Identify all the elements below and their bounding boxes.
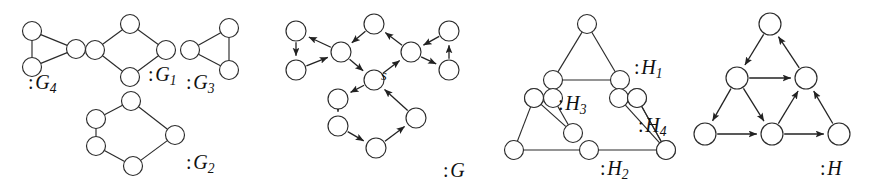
graph-edge [198, 54, 220, 65]
label-sub-h3: 3 [580, 102, 587, 117]
graph-node [86, 41, 105, 60]
graph-node [580, 141, 599, 160]
graph-node [23, 22, 42, 41]
label-sub-h4: 4 [660, 124, 667, 139]
graph-canvas [0, 0, 882, 192]
graph-label-g1: : G1 [148, 64, 176, 87]
graph-node [121, 15, 140, 34]
label-letter-h4: H [645, 114, 659, 136]
graph-node [124, 157, 143, 176]
graph-edge [814, 91, 833, 123]
graph-node [401, 42, 421, 62]
graph-node [610, 89, 629, 108]
graph-edge [306, 57, 327, 66]
graph-node [525, 89, 544, 108]
graph-edge [104, 151, 124, 162]
graph-edge [139, 107, 168, 129]
graph-label-h2: : H2 [600, 158, 628, 181]
graph-node [366, 138, 386, 158]
label-letter-g3: G [193, 71, 207, 93]
graph-node [828, 123, 850, 145]
label-sub-h2: 2 [622, 167, 629, 182]
label-letter-h1: H [641, 56, 655, 78]
source-node-label: s [381, 67, 387, 84]
graph-edge [351, 85, 365, 92]
graph-edge [141, 141, 168, 161]
graph-edge [592, 32, 615, 72]
graph-label-h1: : H1 [634, 57, 662, 80]
graph-node [286, 21, 306, 41]
graph-node [544, 71, 563, 90]
graph-edge [138, 30, 159, 45]
graph-edge [103, 56, 123, 71]
graph-node [439, 21, 459, 41]
graph-label-g2: : G2 [186, 152, 214, 175]
label-sub-h1: 1 [656, 66, 663, 81]
label-sub-g3: 3 [208, 81, 215, 96]
graph-label-h: : H [820, 158, 842, 181]
graph-edge [423, 36, 439, 45]
graph-node [761, 123, 783, 145]
graph-node [181, 41, 200, 60]
graph-node [328, 89, 348, 109]
graph-figure: s : G4 : G1 : G3 : G2 : G : H1 : H3 : H4… [0, 0, 882, 192]
graph-node [87, 137, 106, 156]
graph-edge [385, 33, 402, 46]
graph-node [564, 124, 583, 143]
graph-node [67, 40, 86, 59]
graph-label-g3: : G3 [186, 72, 214, 95]
graph-edge [743, 88, 763, 121]
graph-node [122, 92, 141, 111]
label-sub-g1: 1 [170, 73, 177, 88]
graph-edge [352, 31, 366, 43]
graph-label-g4: : G4 [28, 72, 56, 95]
label-letter-h2: H [607, 157, 621, 179]
graph-edge [350, 59, 364, 71]
graph-node [220, 19, 239, 38]
label-letter-g4: G [35, 71, 49, 93]
graph-node [694, 123, 716, 145]
graph-node [157, 41, 176, 60]
graph-node [657, 141, 676, 160]
graph-node [611, 71, 630, 90]
graph-node [331, 42, 351, 62]
graph-edge [385, 127, 405, 142]
graph-edge [41, 35, 67, 46]
label-letter-h3: H [565, 92, 579, 114]
graph-node [166, 126, 185, 145]
graph-edge [713, 89, 731, 121]
graph-node [220, 61, 239, 80]
graph-edge [198, 33, 220, 46]
graph-edge [778, 91, 798, 124]
graph-label-h4: : H4 [638, 115, 666, 138]
graph-node [439, 60, 459, 80]
label-letter-g: G [450, 159, 464, 181]
label-letter-g1: G [155, 63, 169, 85]
graph-node [505, 141, 524, 160]
graph-edge [558, 32, 582, 72]
label-sub-g4: 4 [50, 81, 57, 96]
graph-label-g: : G [443, 160, 465, 183]
graph-node [795, 67, 817, 89]
graph-node [286, 60, 306, 80]
label-sub-g2: 2 [208, 161, 215, 176]
label-letter-g2: G [193, 151, 207, 173]
graph-edge [348, 132, 364, 141]
graph-node [726, 67, 748, 89]
graph-node [759, 13, 781, 35]
graph-edge [778, 37, 799, 68]
graph-edge [421, 57, 436, 64]
graph-node [364, 14, 384, 34]
graph-edge [745, 34, 764, 65]
graph-edge [309, 37, 331, 47]
graph-edge [517, 107, 530, 141]
graph-node [578, 15, 597, 34]
graph-edge [385, 90, 408, 111]
graph-edge [41, 53, 67, 64]
graph-node [87, 110, 106, 129]
graph-node [406, 108, 426, 128]
graph-edge [103, 30, 123, 45]
graph-node [628, 89, 647, 108]
graph-edge [104, 105, 122, 114]
graph-node [121, 68, 140, 87]
